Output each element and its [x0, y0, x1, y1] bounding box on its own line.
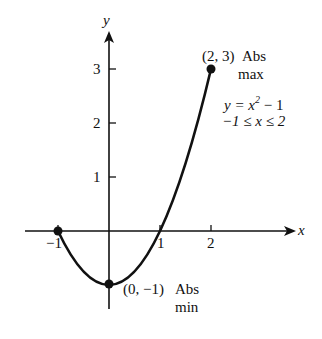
- min-label-min: min: [175, 300, 198, 315]
- min-label-abs: Abs: [175, 282, 199, 297]
- y-tick-label-2: 2: [93, 116, 101, 131]
- x-tick-label-neg1: −1: [46, 236, 62, 251]
- equation-domain: −1 ≤ x ≤ 2: [222, 114, 285, 129]
- min-point-coords: (0, −1): [123, 282, 164, 297]
- x-tick-label-2: 2: [207, 236, 215, 251]
- x-tick-label-1: 1: [157, 236, 165, 251]
- abs-min-dot: [105, 280, 114, 289]
- max-label-abs: Abs: [242, 49, 266, 64]
- parabola-curve: [58, 69, 211, 285]
- x-tick-marks: [58, 225, 211, 231]
- x-axis-label: x: [298, 223, 305, 238]
- y-tick-label-1: 1: [93, 170, 101, 185]
- y-tick-label-3: 3: [93, 62, 101, 77]
- y-axis-label: y: [103, 13, 110, 28]
- max-label-max: max: [238, 67, 264, 82]
- function-graph: y x −1 1 2 1 2 3 (2, 3) Abs max y = x2 −…: [0, 0, 322, 339]
- max-point-coords: (2, 3): [202, 49, 235, 64]
- equation-line-1: y = x2 − 1: [224, 96, 283, 113]
- abs-max-dot: [207, 65, 216, 74]
- y-tick-marks: [109, 69, 116, 177]
